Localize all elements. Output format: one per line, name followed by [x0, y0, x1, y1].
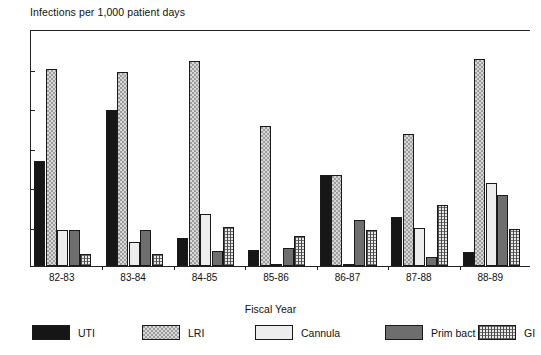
x-axis-title: Fiscal Year [0, 303, 541, 315]
x-axis-tick-mark [317, 266, 318, 270]
bar-uti [320, 175, 331, 266]
bar-gi [509, 229, 520, 266]
legend-item: Prim bact [385, 325, 475, 340]
bar-prim-bact [69, 230, 80, 266]
chart-legend: UTILRICannulaPrim bactGI [0, 325, 541, 347]
y-axis: 024681012 [0, 30, 30, 267]
legend-label: LRI [188, 327, 204, 339]
bar-group [102, 31, 173, 266]
bar-lri [117, 72, 128, 266]
x-axis-tick-label: 83-84 [120, 272, 146, 283]
legend-label: GI [524, 327, 535, 339]
plot-frame [30, 30, 530, 267]
legend-label: Cannula [301, 327, 340, 339]
swatch-cannula [255, 325, 293, 340]
x-axis-tick-mark [174, 266, 175, 270]
legend-item: Cannula [255, 325, 340, 340]
x-axis-tick-label: 82-83 [49, 272, 75, 283]
bar-cannula [271, 264, 282, 266]
bar-group [317, 31, 388, 266]
x-axis-tick-label: 87-88 [406, 272, 432, 283]
bar-uti [391, 217, 402, 266]
swatch-lri [142, 325, 180, 340]
x-axis-tick-label: 84-85 [192, 272, 218, 283]
x-axis-tick-label: 86-87 [335, 272, 361, 283]
bar-gi [80, 254, 91, 266]
bar-gi [152, 254, 163, 266]
chart-title: Infections per 1,000 patient days [30, 6, 185, 18]
bar-prim-bact [283, 248, 294, 266]
bar-prim-bact [426, 257, 437, 266]
x-axis-tick-label: 85-86 [263, 272, 289, 283]
bar-gi [366, 230, 377, 266]
legend-label: UTI [78, 327, 95, 339]
legend-item: UTI [32, 325, 95, 340]
bar-lri [331, 175, 342, 266]
legend-label: Prim bact [431, 327, 475, 339]
legend-item: LRI [142, 325, 204, 340]
bar-gi [437, 205, 448, 266]
plot-area [31, 31, 530, 266]
legend-item: GI [478, 325, 535, 340]
bar-gi [223, 227, 234, 267]
bar-uti [248, 250, 259, 266]
bar-prim-bact [497, 195, 508, 266]
bar-group [460, 31, 531, 266]
bar-cannula [57, 230, 68, 266]
bar-uti [106, 110, 117, 266]
bar-prim-bact [354, 220, 365, 266]
swatch-gi [478, 325, 516, 340]
bar-group [174, 31, 245, 266]
x-axis-tick-mark [460, 266, 461, 270]
bar-group [388, 31, 459, 266]
x-axis-tick-label: 88-89 [477, 272, 503, 283]
bar-uti [177, 238, 188, 266]
bar-cannula [200, 214, 211, 266]
swatch-uti [32, 325, 70, 340]
bar-gi [294, 236, 305, 266]
x-axis-tick-mark [102, 266, 103, 270]
bar-uti [463, 252, 474, 266]
bar-group [31, 31, 102, 266]
bar-prim-bact [212, 251, 223, 266]
bar-cannula [343, 264, 354, 266]
bar-prim-bact [140, 230, 151, 266]
x-axis-tick-mark [388, 266, 389, 270]
bar-cannula [486, 183, 497, 266]
x-axis-tick-mark [245, 266, 246, 270]
bar-lri [403, 134, 414, 266]
chart-figure: Infections per 1,000 patient days 024681… [0, 0, 541, 355]
bar-lri [46, 69, 57, 267]
bar-cannula [129, 242, 140, 266]
bar-lri [189, 61, 200, 266]
bar-uti [34, 161, 45, 266]
bar-lri [260, 126, 271, 266]
swatch-prim-bact [385, 325, 423, 340]
bar-group [245, 31, 316, 266]
bar-cannula [414, 228, 425, 267]
bar-lri [474, 59, 485, 266]
